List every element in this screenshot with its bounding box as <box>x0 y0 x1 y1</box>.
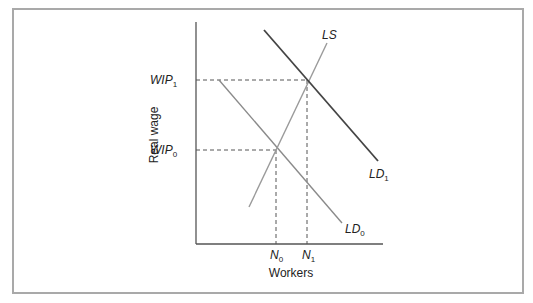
wip1-label: WIP1 <box>150 73 178 89</box>
n1-label: N1 <box>302 248 316 264</box>
ld1-curve <box>264 30 378 161</box>
y-axis-title: Real wage <box>147 106 161 163</box>
n0-label: N0 <box>270 248 284 264</box>
ld1-label: LD1 <box>369 167 389 183</box>
ld0-label: LD0 <box>345 222 365 238</box>
ld0-curve <box>219 80 342 223</box>
labor-market-diagram: LS LD1 LD0 WIP1 WIP0 N0 N1 Workers Real … <box>0 0 533 303</box>
ls-curve <box>249 43 327 207</box>
ls-label: LS <box>322 28 337 42</box>
x-axis-title: Workers <box>269 266 313 280</box>
